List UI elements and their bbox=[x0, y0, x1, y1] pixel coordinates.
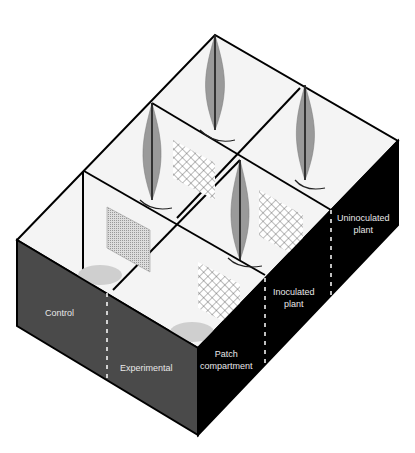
label-control: Control bbox=[45, 307, 74, 319]
label-uninoculated-plant: Uninoculated plant bbox=[337, 212, 390, 236]
label-inoculated-line1: Inoculated bbox=[273, 286, 315, 298]
label-inoculated-line2: plant bbox=[273, 298, 315, 310]
label-experimental: Experimental bbox=[120, 362, 173, 374]
label-uninoculated-line2: plant bbox=[337, 224, 390, 236]
label-inoculated-plant: Inoculated plant bbox=[273, 286, 315, 310]
label-patch-line1: Patch bbox=[200, 348, 253, 360]
label-patch-compartment: Patch compartment bbox=[200, 348, 253, 372]
label-uninoculated-line1: Uninoculated bbox=[337, 212, 390, 224]
diagram-canvas: Control Experimental Patch compartment I… bbox=[0, 0, 415, 453]
label-patch-line2: compartment bbox=[200, 360, 253, 372]
